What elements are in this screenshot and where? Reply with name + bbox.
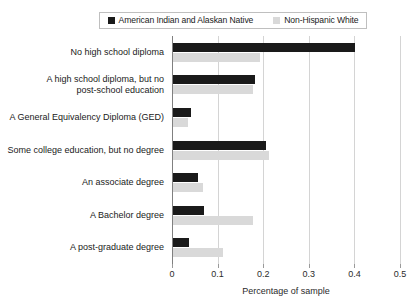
y-axis-label: A General Equivalency Diploma (GED) (0, 112, 164, 123)
bar (173, 151, 269, 160)
bar (173, 216, 253, 225)
x-axis-tick (354, 264, 355, 268)
y-axis-label: A high school diploma, but no post-schoo… (0, 74, 164, 96)
y-axis-label: An associate degree (0, 177, 164, 188)
bar (173, 108, 191, 117)
bar-group (173, 173, 400, 192)
bar-group (173, 108, 400, 127)
legend-label: American Indian and Alaskan Native (119, 16, 254, 25)
legend-swatch-icon (273, 17, 280, 24)
x-axis-tick-label: 0.1 (211, 269, 224, 279)
x-axis-tick (309, 264, 310, 268)
legend-label: Non-Hispanic White (284, 16, 358, 25)
bar (173, 248, 223, 257)
bar (173, 43, 355, 52)
x-axis-tick (400, 264, 401, 268)
bar (173, 183, 203, 192)
bar (173, 85, 253, 94)
bar (173, 238, 189, 247)
y-axis-label: A Bachelor degree (0, 210, 164, 221)
bar (173, 75, 255, 84)
x-axis-tick (218, 264, 219, 268)
plot-area: 00.10.20.30.40.5 Percentage of sample (172, 36, 400, 264)
bar-group (173, 75, 400, 94)
legend-swatch-icon (108, 17, 115, 24)
y-axis-label: Some college education, but no degree (0, 145, 164, 156)
bar-group (173, 43, 400, 62)
legend-entry-american-indian-and-alaskan-native: American Indian and Alaskan Native (108, 16, 254, 25)
bar-group (173, 206, 400, 225)
x-axis-tick-label: 0 (169, 269, 174, 279)
x-axis-tick-label: 0.2 (257, 269, 270, 279)
legend-entry-non-hispanic-white: Non-Hispanic White (273, 16, 358, 25)
bar-chart: American Indian and Alaskan Native Non-H… (0, 0, 413, 305)
chart-legend: American Indian and Alaskan Native Non-H… (99, 12, 367, 29)
y-axis-labels: No high school diplomaA high school dipl… (0, 36, 168, 264)
gridline (400, 36, 401, 264)
x-axis-tick (172, 264, 173, 268)
x-axis-title: Percentage of sample (172, 286, 400, 296)
y-axis-label: No high school diploma (0, 47, 164, 58)
bar (173, 141, 266, 150)
x-axis-tick-label: 0.3 (303, 269, 316, 279)
bar (173, 206, 204, 215)
bar (173, 118, 188, 127)
x-axis-tick (263, 264, 264, 268)
y-axis-label: A post-graduate degree (0, 242, 164, 253)
x-axis-tick-label: 0.4 (348, 269, 361, 279)
bar (173, 173, 198, 182)
bar-group (173, 141, 400, 160)
bar (173, 53, 260, 62)
bar-group (173, 238, 400, 257)
x-axis-tick-label: 0.5 (394, 269, 407, 279)
